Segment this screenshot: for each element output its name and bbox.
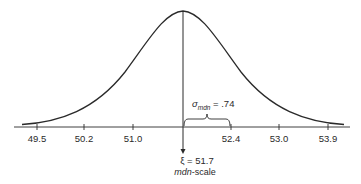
tick-label: 52.4 (222, 133, 241, 144)
sigma-brace (184, 114, 230, 126)
sigma-annotation: σmdn = .74 (192, 98, 234, 111)
scale-italic: mdn (174, 167, 192, 177)
tick-label: 53.0 (270, 133, 289, 144)
scale-rest: -scale (192, 167, 216, 177)
tick-label: 49.5 (28, 133, 47, 144)
scale-annotation: mdn-scale (174, 167, 216, 177)
sigma-value: = .74 (210, 98, 234, 109)
mean-annotation: ξ = 51.7 (180, 155, 214, 166)
tick-label: 51.0 (124, 133, 143, 144)
mean-arrow-icon (181, 149, 186, 154)
tick-label: 53.9 (319, 133, 338, 144)
tick-label: 50.2 (75, 133, 94, 144)
sigma-subscript: mdn (198, 104, 211, 111)
